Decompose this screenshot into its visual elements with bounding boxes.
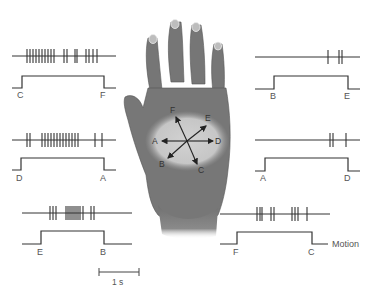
motion-trace [255, 76, 360, 89]
mr-end-label: D [344, 173, 351, 183]
finger-ring [190, 25, 205, 84]
direction-label-B: B [159, 159, 165, 169]
tr-start-label: B [270, 91, 276, 101]
br-start-label: F [233, 247, 239, 257]
panel-middle-right [255, 133, 360, 171]
finger-little [212, 44, 225, 92]
bl-end-label: B [100, 247, 106, 257]
scale-bar [99, 268, 139, 276]
panel-middle-left [12, 133, 116, 170]
direction-label-E: E [205, 113, 211, 123]
finger-middle [168, 22, 184, 82]
monkey-hand-illustration: A D F E B C [124, 20, 230, 239]
nail-ring [192, 23, 200, 32]
br-end-label: C [308, 247, 315, 257]
motion-trace [255, 158, 360, 171]
nail-middle [171, 20, 179, 29]
direction-label-A: A [152, 136, 158, 146]
scale-bar-label: 1 s [112, 277, 123, 287]
direction-label-D: D [215, 136, 221, 146]
tr-end-label: E [344, 91, 350, 101]
finger-index [146, 38, 162, 90]
motion-trace [12, 158, 116, 170]
motion-trace [220, 232, 328, 244]
panel-top-left [12, 49, 116, 88]
nail-little [214, 42, 221, 50]
nail-index [149, 35, 157, 44]
mr-start-label: A [260, 173, 266, 183]
motion-label: Motion [332, 239, 359, 249]
panel-bottom-left [22, 206, 132, 244]
ml-start-label: D [16, 173, 23, 183]
direction-label-C: C [198, 165, 204, 175]
panel-top-right [255, 50, 360, 89]
motion-trace [12, 76, 116, 88]
tl-end-label: F [100, 90, 106, 100]
directional-tuning-figure: A D F E B C C F [0, 0, 374, 295]
panel-bottom-right [220, 207, 330, 244]
tl-start-label: C [17, 90, 24, 100]
motion-trace [22, 231, 132, 244]
direction-label-F: F [170, 105, 175, 115]
ml-end-label: A [100, 173, 106, 183]
bl-start-label: E [37, 247, 43, 257]
